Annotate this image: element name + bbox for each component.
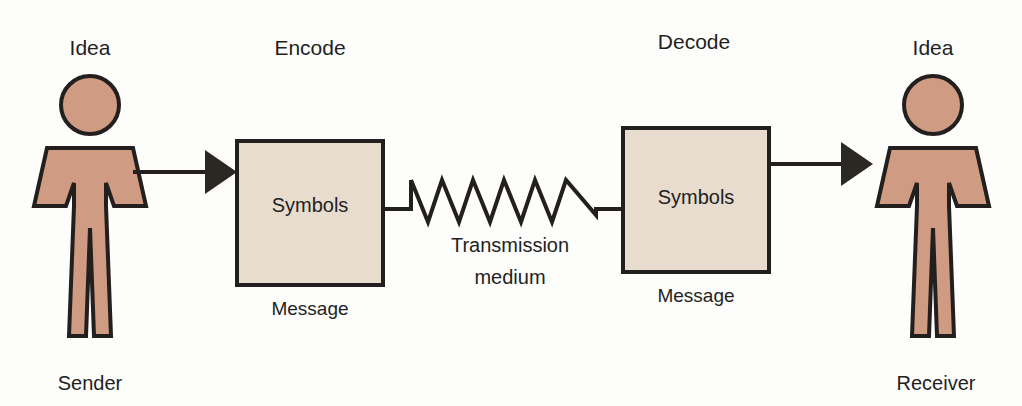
connector-encode-to-channel <box>383 180 411 209</box>
decode-message-caption: Message <box>657 285 734 306</box>
encode-symbols-label: Symbols <box>272 194 349 216</box>
sender-figure <box>34 76 146 336</box>
encode-label: Encode <box>274 36 345 59</box>
arrow-right-icon <box>841 142 873 186</box>
receiver-body-icon <box>877 148 989 336</box>
receiver-figure <box>877 76 989 336</box>
communication-model-diagram: Idea Encode Decode Idea Symbols Symbols … <box>0 0 1022 406</box>
connector-line <box>383 180 411 209</box>
sawtooth-path <box>411 180 623 222</box>
encode-message-caption: Message <box>271 298 348 319</box>
diagram-canvas: Idea Encode Decode Idea Symbols Symbols … <box>0 0 1022 406</box>
sender-idea-label: Idea <box>70 36 111 59</box>
arrow-right-icon <box>205 150 237 194</box>
decode-label: Decode <box>658 30 730 53</box>
receiver-head-icon <box>904 76 962 134</box>
transmission-medium-label-line2: medium <box>474 266 545 288</box>
transmission-medium-label-line1: Transmission <box>451 234 569 256</box>
sawtooth-wave-icon <box>411 180 623 222</box>
receiver-label: Receiver <box>897 372 976 394</box>
sender-head-icon <box>61 76 119 134</box>
arrow-decode-to-receiver <box>769 142 873 186</box>
arrow-sender-to-encode <box>133 150 237 194</box>
sender-label: Sender <box>58 372 123 394</box>
receiver-idea-label: Idea <box>913 36 954 59</box>
sender-body-icon <box>34 148 146 336</box>
decode-symbols-label: Symbols <box>658 186 735 208</box>
